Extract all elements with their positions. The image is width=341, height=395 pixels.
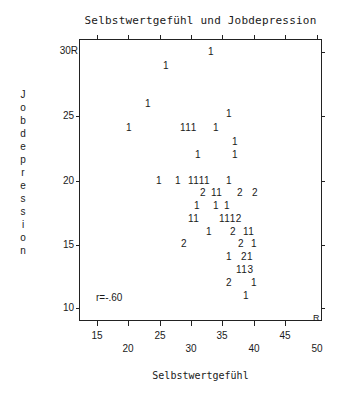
data-point-count: 1: [126, 123, 132, 133]
data-point-count: 1: [213, 123, 219, 133]
top-tick: [160, 35, 161, 39]
chart-title: Selbstwertgefühl und Jobdepression: [79, 14, 322, 27]
data-point-count: 1111: [188, 176, 210, 186]
right-tick: [322, 181, 325, 182]
y-axis-title-char: i: [18, 218, 28, 231]
x-tick-label: 50: [305, 343, 329, 354]
right-tick: [322, 52, 325, 53]
data-point-count: 11: [243, 227, 254, 237]
top-tick: [222, 35, 223, 39]
right-tick: [322, 245, 325, 246]
x-tick-label: 25: [148, 330, 172, 341]
data-point-count: 2: [181, 239, 187, 249]
data-point-count: 2: [200, 188, 206, 198]
top-tick: [128, 35, 129, 39]
data-point-count: 2: [252, 188, 258, 198]
x-tick-label: 15: [85, 330, 109, 341]
y-axis-title-char: p: [18, 153, 28, 166]
data-point-count: 111: [180, 123, 197, 133]
data-point-count: 1: [251, 239, 257, 249]
bottom-tick: [97, 321, 98, 326]
y-axis-title-char: e: [18, 140, 28, 153]
top-tick: [254, 35, 255, 39]
top-tick: [285, 35, 286, 39]
y-axis-title: Jobdepression: [18, 88, 28, 257]
data-point-count: 1: [232, 137, 238, 147]
data-point-count: 1: [208, 47, 214, 57]
left-tick: [76, 181, 80, 182]
data-point-count: 2: [238, 239, 244, 249]
bottom-tick: [285, 321, 286, 326]
bottom-tick: [128, 321, 129, 326]
x-axis-title: Selbstwertgefühl: [79, 370, 322, 381]
data-point-count: 11: [211, 188, 222, 198]
y-tick-label: 10: [52, 302, 74, 313]
bottom-tick: [160, 321, 161, 326]
left-tick: [76, 245, 80, 246]
data-point-count: 21: [241, 252, 253, 262]
top-tick: [317, 35, 318, 39]
data-point-count: 1: [156, 176, 162, 186]
y-tick-label: 30R: [56, 45, 78, 56]
x-tick-label: 45: [273, 330, 297, 341]
y-axis-title-char: J: [18, 88, 28, 101]
y-axis-title-char: o: [18, 231, 28, 244]
data-point-count: 113: [236, 265, 253, 275]
data-point-count: 1: [226, 109, 232, 119]
right-tick: [322, 308, 325, 309]
data-point-count: 1: [194, 201, 200, 211]
y-tick-label: 15: [52, 239, 74, 250]
y-axis-title-char: s: [18, 205, 28, 218]
data-point-count: 1: [224, 201, 230, 211]
top-tick: [97, 35, 98, 39]
data-point-count: 1: [251, 278, 257, 288]
data-point-count: 1: [213, 201, 219, 211]
top-tick: [191, 35, 192, 39]
bottom-tick: [222, 321, 223, 326]
x-tick-label: 20: [116, 343, 140, 354]
y-axis-title-char: s: [18, 192, 28, 205]
data-point-count: 2: [226, 278, 232, 288]
bottom-tick: [254, 321, 255, 326]
data-point-count: 1: [232, 150, 238, 160]
data-point-count: 1: [243, 291, 249, 301]
x-tick-label: 35: [210, 330, 234, 341]
corner-marker: R: [313, 313, 320, 323]
data-point-count: 1: [195, 150, 201, 160]
y-axis-title-char: r: [18, 166, 28, 179]
data-point-count: 1: [175, 176, 181, 186]
data-point-count: 1: [226, 252, 232, 262]
x-tick-label: 40: [242, 343, 266, 354]
y-axis-title-char: e: [18, 179, 28, 192]
x-tick-label: 30: [179, 343, 203, 354]
data-point-count: 1: [145, 99, 151, 109]
data-point-count: 2: [230, 227, 236, 237]
data-point-count: 1: [206, 227, 212, 237]
y-axis-title-char: b: [18, 114, 28, 127]
y-tick-label: 20: [52, 175, 74, 186]
data-point-count: 1: [226, 176, 232, 186]
right-tick: [322, 116, 325, 117]
y-axis-title-char: d: [18, 127, 28, 140]
left-tick: [76, 308, 80, 309]
data-point-count: 1: [163, 61, 169, 71]
data-point-count: 1112: [219, 214, 242, 224]
bottom-tick: [191, 321, 192, 326]
y-tick-label: 25: [52, 110, 74, 121]
data-point-count: 11: [188, 214, 199, 224]
correlation-annotation: r=-.60: [96, 292, 122, 303]
y-axis-title-char: o: [18, 101, 28, 114]
y-axis-title-char: n: [18, 244, 28, 257]
left-tick: [76, 116, 80, 117]
data-point-count: 2: [237, 188, 243, 198]
